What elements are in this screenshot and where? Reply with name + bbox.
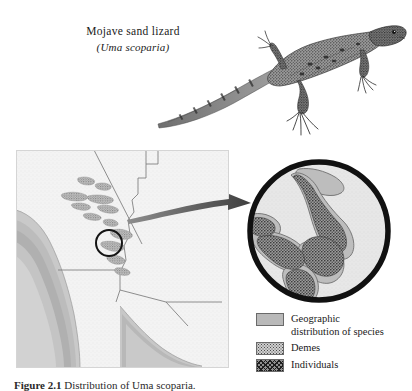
map-legend: Geographic distribution of species Demes… bbox=[256, 312, 412, 375]
figure-caption: Figure 2.1 Distribution of Uma scoparia. bbox=[14, 379, 344, 391]
stippled-swatch bbox=[256, 342, 284, 355]
solid-gray-swatch bbox=[256, 313, 284, 326]
caption-number: Figure 2.1 bbox=[14, 379, 61, 391]
legend-species-line2: distribution of species bbox=[291, 325, 384, 338]
dense-hatched-swatch bbox=[256, 359, 284, 372]
lizard-head bbox=[369, 26, 406, 46]
lizard-front-leg bbox=[360, 50, 369, 77]
caption-text: Distribution of Uma scoparia. bbox=[64, 379, 195, 391]
legend-item-species: Geographic distribution of species bbox=[256, 312, 412, 338]
magnified-inset bbox=[243, 155, 395, 307]
lizard-front-foot bbox=[358, 76, 376, 93]
lizard-eye bbox=[392, 30, 396, 34]
legend-item-demes: Demes bbox=[256, 341, 412, 355]
lizard-hind-foot bbox=[287, 112, 318, 135]
lizard-tail bbox=[158, 70, 278, 128]
legend-label-individuals: Individuals bbox=[291, 358, 338, 371]
legend-item-individuals: Individuals bbox=[256, 358, 412, 372]
lizard-hind-leg bbox=[297, 80, 309, 114]
figure-root: Mojave sand lizard (Uma scoparia) bbox=[0, 0, 412, 391]
legend-label-demes: Demes bbox=[291, 341, 320, 354]
legend-label-species: Geographic distribution of species bbox=[291, 312, 384, 338]
lizard-illustration bbox=[150, 6, 412, 146]
legend-species-line1: Geographic bbox=[291, 313, 340, 324]
distribution-map bbox=[16, 150, 229, 368]
